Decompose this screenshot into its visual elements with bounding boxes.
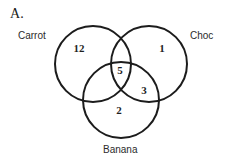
region-count-all-three: 5	[117, 65, 123, 76]
set-label-choc: Choc	[190, 31, 213, 41]
region-count-carrot-only: 12	[74, 43, 85, 54]
set-label-banana: Banana	[103, 145, 137, 155]
region-count-choc-banana: 3	[141, 85, 147, 96]
venn-circles-group	[0, 0, 227, 161]
set-label-carrot: Carrot	[18, 31, 46, 41]
region-count-banana-only: 2	[116, 105, 122, 116]
venn-diagram-figure: A. Carrot Choc Banana 12 1 5 3 2	[0, 0, 227, 161]
region-count-choc-only: 1	[159, 43, 165, 54]
